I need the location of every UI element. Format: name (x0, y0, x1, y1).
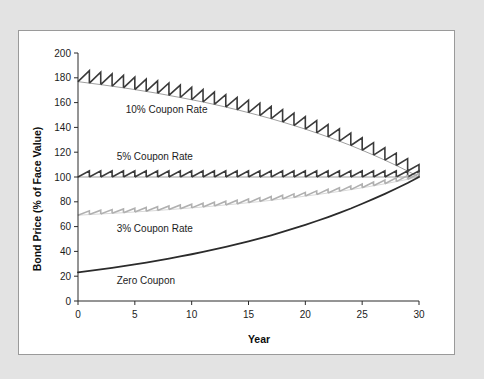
series-label-0-pct: Zero Coupon (117, 275, 175, 286)
y-tick-label: 160 (54, 97, 71, 108)
series-baseline-curve (78, 82, 419, 177)
y-tick-label: 80 (60, 196, 72, 207)
series-annotations-layer: 10% Coupon Rate5% Coupon Rate3% Coupon R… (117, 104, 208, 286)
x-tick-label: 15 (243, 309, 255, 320)
x-tick-label: 0 (75, 309, 81, 320)
series-baseline-curve (78, 177, 419, 215)
series-sawtooth-curve (78, 173, 419, 215)
y-axis-title: Bond Price (% of Face Value) (31, 127, 43, 272)
y-tick-label: 40 (60, 246, 72, 257)
series-layer (78, 71, 419, 273)
series-label-10-pct: 10% Coupon Rate (126, 104, 208, 115)
chart-card: 020406080100120140160180200051015202530 … (18, 30, 455, 355)
x-tick-label: 20 (300, 309, 312, 320)
y-tick-label: 120 (54, 147, 71, 158)
x-tick-label: 30 (413, 309, 425, 320)
y-tick-label: 140 (54, 122, 71, 133)
bond-price-chart: 020406080100120140160180200051015202530 … (19, 31, 456, 356)
axis-layer (74, 53, 419, 305)
y-tick-label: 200 (54, 48, 71, 59)
series-3-pct (78, 173, 419, 215)
series-label-3-pct: 3% Coupon Rate (117, 223, 194, 234)
x-tick-label: 10 (186, 309, 198, 320)
series-label-5-pct: 5% Coupon Rate (117, 151, 194, 162)
series-5-pct (78, 171, 419, 177)
y-tick-label: 0 (65, 296, 71, 307)
y-tick-label: 100 (54, 172, 71, 183)
y-tick-label: 60 (60, 221, 72, 232)
x-axis-title: Year (248, 333, 270, 345)
x-tick-label: 5 (132, 309, 138, 320)
series-sawtooth-curve (78, 171, 419, 177)
y-tick-label: 180 (54, 72, 71, 83)
x-tick-label: 25 (357, 309, 369, 320)
y-tick-label: 20 (60, 271, 72, 282)
